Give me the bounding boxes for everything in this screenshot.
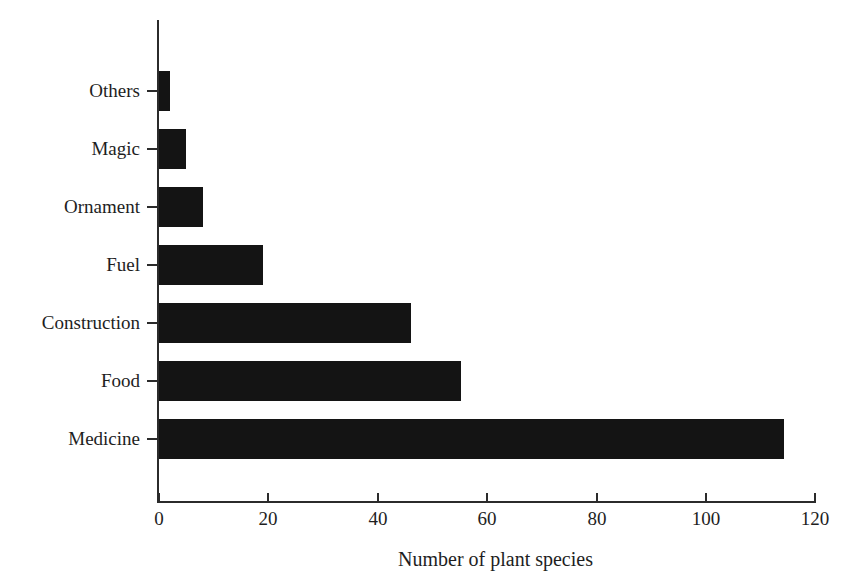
y-axis-tick-mark	[147, 264, 158, 266]
x-axis-tick-label: 60	[457, 508, 517, 530]
bar-food	[159, 361, 461, 401]
x-axis-tick-label: 20	[238, 508, 298, 530]
bar-row: Construction	[0, 294, 851, 352]
x-axis-tick-mark	[486, 493, 488, 502]
bar-row: Others	[0, 62, 851, 120]
bar-row: Magic	[0, 120, 851, 178]
bar-row: Medicine	[0, 410, 851, 468]
x-axis-tick-mark	[596, 493, 598, 502]
y-axis-tick-label: Medicine	[68, 428, 140, 450]
x-axis-title: Number of plant species	[0, 547, 851, 571]
x-axis-tick-label: 100	[676, 508, 736, 530]
y-axis-tick-label: Others	[89, 80, 140, 102]
y-axis-tick-label: Ornament	[64, 196, 140, 218]
bar-row: Food	[0, 352, 851, 410]
bar-ornament	[159, 187, 203, 227]
bar-row: Ornament	[0, 178, 851, 236]
y-axis-tick-mark	[147, 322, 158, 324]
x-axis-tick-label: 0	[129, 508, 189, 530]
bar-chart: Others Magic Ornament Fuel Construction …	[0, 0, 851, 583]
y-axis-tick-mark	[147, 380, 158, 382]
bar-row: Fuel	[0, 236, 851, 294]
y-axis-tick-label: Construction	[42, 312, 140, 334]
x-axis-tick-label: 120	[785, 508, 845, 530]
x-axis-tick-mark	[158, 493, 160, 502]
y-axis-tick-label: Food	[101, 370, 140, 392]
y-axis-tick-mark	[147, 90, 158, 92]
bar-medicine	[159, 419, 784, 459]
x-axis-tick-mark	[705, 493, 707, 502]
y-axis-tick-mark	[147, 438, 158, 440]
x-axis-tick-mark	[377, 493, 379, 502]
x-axis-tick-mark	[267, 493, 269, 502]
x-axis-tick-label: 40	[348, 508, 408, 530]
bars-layer: Others Magic Ornament Fuel Construction …	[0, 0, 851, 583]
x-axis-tick-mark	[814, 493, 816, 502]
bar-fuel	[159, 245, 263, 285]
y-axis-tick-label: Fuel	[106, 254, 140, 276]
y-axis-tick-mark	[147, 148, 158, 150]
bar-construction	[159, 303, 411, 343]
x-axis-tick-label: 80	[567, 508, 627, 530]
y-axis-tick-mark	[147, 206, 158, 208]
bar-magic	[159, 129, 186, 169]
bar-others	[159, 71, 170, 111]
y-axis-tick-label: Magic	[91, 138, 140, 160]
